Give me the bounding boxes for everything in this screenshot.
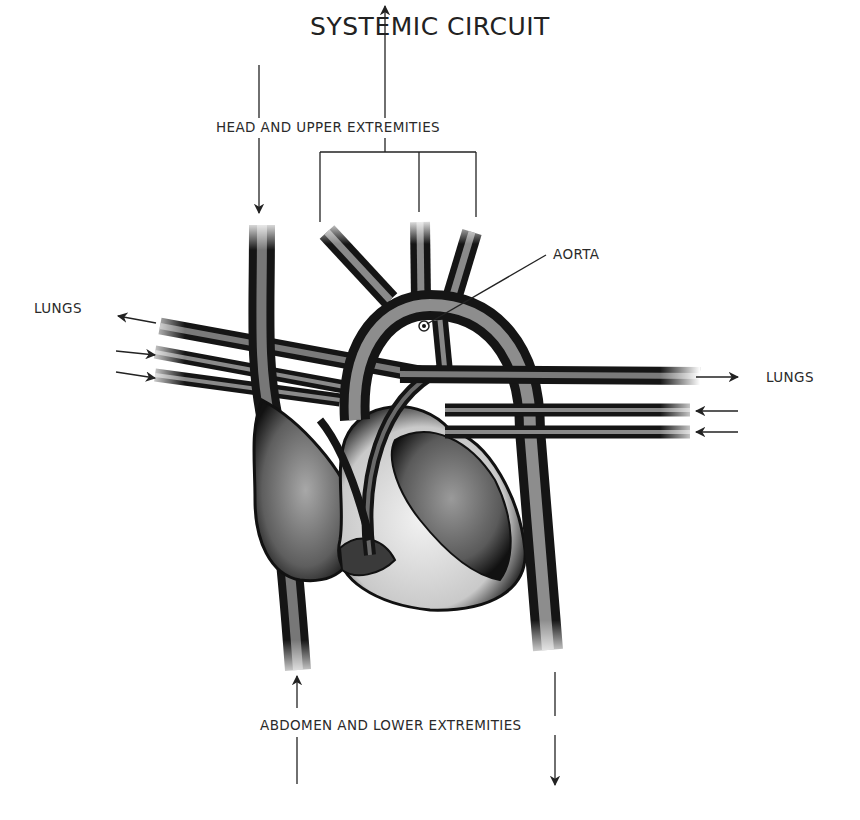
label-aorta: AORTA (551, 246, 601, 262)
label-lungs-right: LUNGS (764, 369, 816, 385)
label-lungs-left: LUNGS (32, 300, 84, 316)
right-pulmonary-vessels (400, 360, 700, 446)
label-head-upper-extremities: HEAD AND UPPER EXTREMITIES (214, 119, 442, 135)
label-abdomen-lower-extremities: ABDOMEN AND LOWER EXTREMITIES (258, 717, 524, 733)
